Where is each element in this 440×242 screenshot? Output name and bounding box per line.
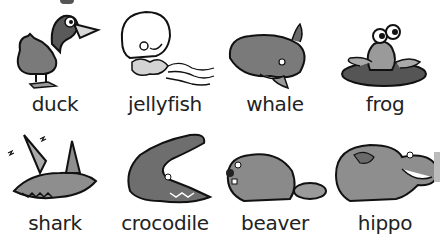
label-shark: shark <box>0 211 110 235</box>
label-frog: frog <box>330 92 440 116</box>
crocodile-icon <box>110 121 220 213</box>
card-hippo: hippo <box>330 121 440 242</box>
frog-icon <box>330 0 440 92</box>
card-crocodile: crocodile <box>110 121 220 242</box>
label-crocodile: crocodile <box>110 211 220 235</box>
label-beaver: beaver <box>220 211 330 235</box>
beaver-icon <box>220 121 330 213</box>
card-frog: frog <box>330 0 440 121</box>
label-duck: duck <box>0 92 110 116</box>
whale-icon <box>220 0 330 92</box>
hippo-icon <box>330 121 440 213</box>
card-whale: whale <box>220 0 330 121</box>
card-shark: shark <box>0 121 110 242</box>
label-jellyfish: jellyfish <box>110 92 220 116</box>
label-hippo: hippo <box>330 211 440 235</box>
jellyfish-icon <box>110 0 220 92</box>
cropped-illustration-fragment <box>434 152 440 182</box>
card-duck: duck <box>0 0 110 121</box>
shark-icon <box>0 121 110 213</box>
card-beaver: beaver <box>220 121 330 242</box>
duck-icon <box>0 0 110 92</box>
label-whale: whale <box>220 92 330 116</box>
card-jellyfish: jellyfish <box>110 0 220 121</box>
